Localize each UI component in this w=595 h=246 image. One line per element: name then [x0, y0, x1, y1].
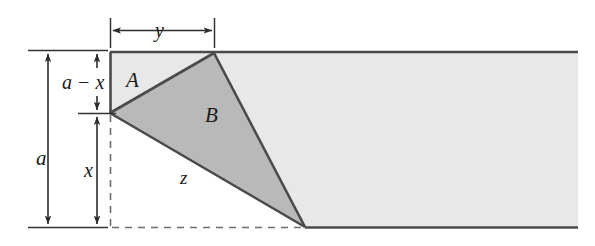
label-region-a: A [126, 70, 139, 91]
geometry-figure: a a − x x y A B z [0, 0, 595, 246]
label-upper-segment-a-minus-x: a − x [62, 72, 104, 92]
label-region-b: B [205, 105, 218, 126]
label-crease-length-z: z [180, 168, 187, 187]
figure-canvas [0, 0, 595, 246]
label-lower-segment-x: x [84, 160, 93, 180]
label-strip-height-a: a [36, 148, 47, 169]
label-fold-width-y: y [155, 20, 164, 40]
